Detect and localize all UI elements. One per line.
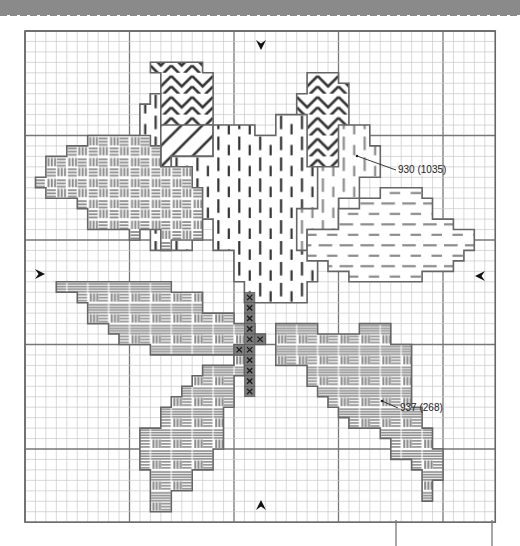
stem-cross-stitch (234, 345, 244, 355)
rose-stem (234, 292, 265, 397)
left-center-arrow-icon (35, 269, 45, 279)
stem-cross-stitch (244, 303, 254, 313)
stem-cross-stitch (244, 313, 254, 323)
needlepoint-chart (0, 0, 520, 546)
stem-cross-stitch (244, 334, 254, 344)
stem-cross-stitch (244, 386, 254, 396)
stem-cross-stitch (244, 376, 254, 386)
leaf-lower-left (140, 355, 245, 512)
stem-cross-stitch (255, 334, 265, 344)
color-key-930-label: 930 (1035) (398, 164, 446, 175)
right-center-arrow-icon (475, 271, 485, 281)
footer-frame (396, 520, 492, 546)
stem-cross-stitch (244, 355, 254, 365)
stem-cross-stitch (244, 365, 254, 375)
stem-cross-stitch (244, 345, 254, 355)
color-key-937-label: 937 (268) (400, 402, 443, 413)
stem-cross-stitch (244, 292, 254, 302)
stem-cross-stitch (244, 324, 254, 334)
